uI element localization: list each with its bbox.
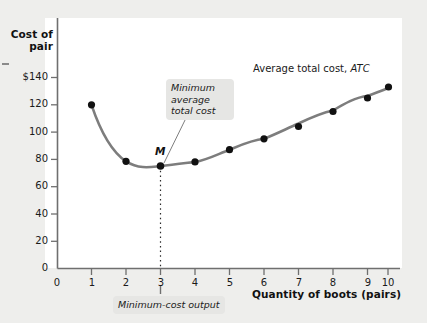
data-point-q5 (226, 146, 233, 153)
x-tick-label-4: 4 (185, 277, 205, 288)
x-tick-label-2: 2 (116, 277, 136, 288)
data-point-q1 (88, 101, 95, 108)
y-tick-label-60: 60 (4, 180, 48, 191)
y-axis-ticks (51, 78, 58, 242)
y-tick-label-40: 40 (4, 208, 48, 219)
y-tick-label-20: 20 (4, 235, 48, 246)
y-tick-label-80: 80 (4, 153, 48, 164)
x-tick-label-6: 6 (254, 277, 274, 288)
minimum-average-total-cost-callout: Minimum average total cost (166, 79, 234, 120)
x-tick-label-10: 10 (378, 277, 398, 288)
y-axis-title: Cost of pair (8, 28, 53, 52)
data-point-q3-minimum (157, 162, 165, 170)
data-point-q4 (191, 158, 198, 165)
x-tick-label-8: 8 (323, 277, 343, 288)
data-point-q7 (295, 123, 302, 130)
y-tick-label-140: $140 (4, 71, 48, 82)
x-tick-label-1: 1 (82, 277, 102, 288)
minimum-cost-output-callout: Minimum-cost output (113, 296, 225, 314)
y-axis-title-line1: Cost of (8, 28, 53, 40)
x-tick-label-7: 7 (289, 277, 309, 288)
x-axis-title: Quantity of boots (pairs) (252, 288, 401, 300)
series-label-abbreviation: ATC (350, 63, 369, 74)
x-tick-label-3: 3 (151, 277, 171, 288)
minimum-point-label: M (155, 145, 165, 157)
x-axis-ticks (92, 269, 391, 276)
x-tick-label-5: 5 (220, 277, 240, 288)
chart-svg (0, 0, 427, 323)
y-tick-label-100: 100 (4, 126, 48, 137)
y-axis-title-line2: pair (8, 40, 53, 52)
figure-container: Cost of pair Quantity of boots (pairs) $… (0, 0, 427, 323)
data-point-q2 (122, 158, 129, 165)
data-point-q10 (385, 83, 392, 90)
x-tick-label-0: 0 (47, 277, 67, 288)
callout-leader-line (164, 114, 188, 163)
x-tick-label-9: 9 (358, 277, 378, 288)
data-point-q8 (329, 108, 336, 115)
y-tick-label-120: 120 (4, 98, 48, 109)
series-label-atc: Average total cost, ATC (253, 63, 370, 74)
atc-curve (92, 88, 389, 167)
y-tick-label-0: 0 (4, 262, 48, 273)
data-point-q6 (260, 135, 267, 142)
data-point-q9 (364, 94, 371, 101)
data-points (88, 83, 392, 169)
series-label-text: Average total cost, (253, 63, 350, 74)
